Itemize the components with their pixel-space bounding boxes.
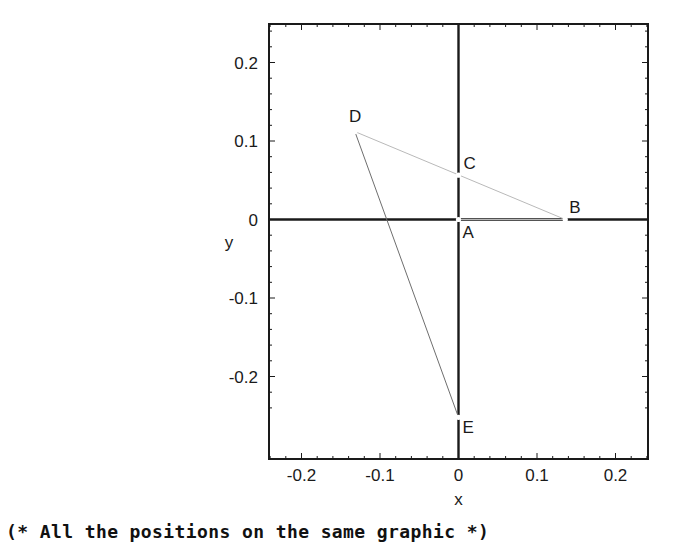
y-tick-label-3: 0.1 — [234, 132, 258, 151]
y-axis-title: y — [225, 233, 234, 252]
x-tick-label-1: -0.1 — [365, 466, 394, 485]
figure-page: ABCDE-0.2-0.100.10.2-0.2-0.100.10.2xy (*… — [0, 0, 679, 559]
point-label-E: E — [463, 418, 474, 437]
y-tick-label-0: -0.2 — [229, 368, 258, 387]
y-tick-label-2: 0 — [249, 211, 258, 230]
plot-svg: ABCDE-0.2-0.100.10.2-0.2-0.100.10.2xy — [0, 0, 679, 505]
code-comment-caption: (* All the positions on the same graphic… — [6, 521, 489, 542]
point-marker-D[interactable] — [352, 129, 357, 134]
y-tick-label-1: -0.1 — [229, 289, 258, 308]
point-label-B: B — [569, 198, 580, 217]
point-marker-C[interactable] — [456, 173, 461, 178]
point-marker-B[interactable] — [563, 217, 568, 222]
segment-DE — [355, 132, 459, 418]
y-tick-label-4: 0.2 — [234, 54, 258, 73]
point-label-D: D — [349, 107, 361, 126]
plot-figure: ABCDE-0.2-0.100.10.2-0.2-0.100.10.2xy — [0, 0, 679, 505]
x-tick-label-3: 0.1 — [525, 466, 549, 485]
x-tick-label-4: 0.2 — [604, 466, 628, 485]
x-tick-label-2: 0 — [454, 466, 463, 485]
point-marker-A[interactable] — [456, 217, 461, 222]
point-label-A: A — [463, 223, 475, 242]
x-tick-label-0: -0.2 — [287, 466, 316, 485]
x-axis-title: x — [454, 490, 463, 505]
point-label-C: C — [464, 154, 476, 173]
point-marker-E[interactable] — [456, 415, 461, 420]
